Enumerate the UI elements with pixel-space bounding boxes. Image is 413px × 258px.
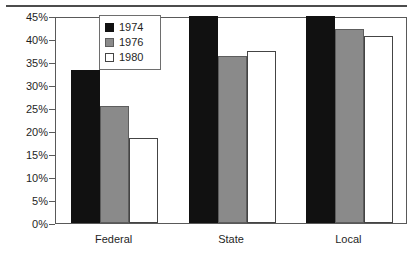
chart-legend: 197419761980 — [99, 15, 161, 70]
legend-item-1974[interactable]: 1974 — [105, 20, 155, 35]
y-tick-label: 5% — [32, 196, 48, 207]
bar-federal-1974 — [71, 70, 100, 223]
y-tick-mark — [49, 224, 55, 225]
legend-label: 1980 — [119, 52, 143, 63]
y-tick-label: 35% — [26, 58, 48, 69]
y-tick-label: 0% — [32, 219, 48, 230]
legend-item-1976[interactable]: 1976 — [105, 35, 155, 50]
top-divider-rule — [6, 5, 407, 7]
y-tick-label: 30% — [26, 81, 48, 92]
bar-federal-1976 — [100, 106, 129, 223]
y-tick-label: 45% — [26, 12, 48, 23]
x-category-label: Federal — [95, 233, 132, 245]
bar-local-1980 — [364, 36, 393, 223]
bar-group-local — [306, 18, 393, 223]
y-tick-label: 15% — [26, 150, 48, 161]
bar-state-1980 — [247, 51, 276, 223]
legend-swatch-icon — [105, 23, 114, 32]
bar-state-1974 — [189, 16, 218, 223]
bar-local-1976 — [335, 29, 364, 223]
legend-swatch-icon — [105, 38, 114, 47]
x-category-label: Local — [335, 233, 361, 245]
bar-federal-1980 — [129, 138, 158, 223]
y-tick-label: 20% — [26, 127, 48, 138]
x-category-label: State — [218, 233, 244, 245]
legend-item-1980[interactable]: 1980 — [105, 50, 155, 65]
y-tick-label: 25% — [26, 104, 48, 115]
legend-label: 1974 — [119, 22, 143, 33]
bar-group-state — [189, 18, 276, 223]
bar-state-1976 — [218, 56, 247, 223]
y-tick-label: 10% — [26, 173, 48, 184]
legend-swatch-icon — [105, 53, 114, 62]
bar-chart: 0%5%10%15%20%25%30%35%40%45% 19741976198… — [0, 0, 413, 258]
y-axis: 0%5%10%15%20%25%30%35%40%45% — [0, 17, 48, 224]
bar-local-1974 — [306, 16, 335, 223]
y-tick-label: 40% — [26, 35, 48, 46]
legend-label: 1976 — [119, 37, 143, 48]
